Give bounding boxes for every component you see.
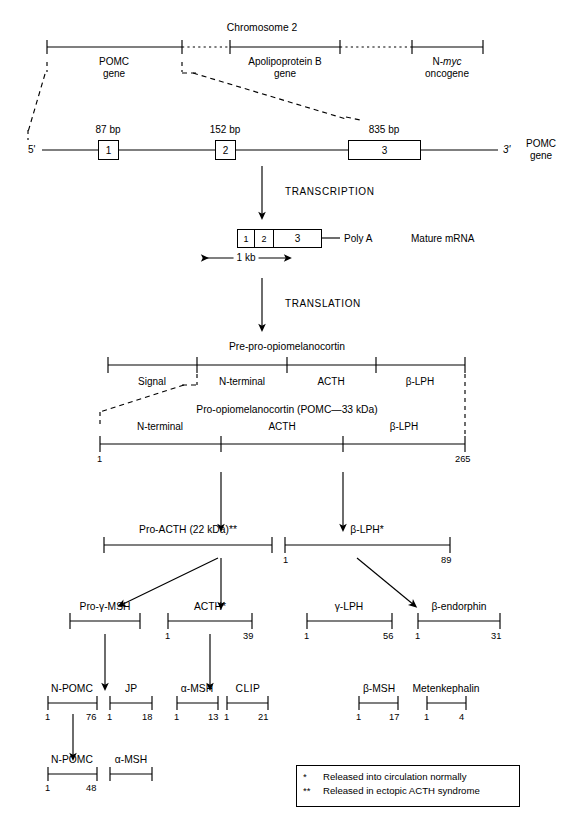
locus-sublabel-nmyc: oncogene (425, 68, 469, 79)
peptide-label-blph: β-LPH* (350, 524, 383, 536)
locus-nmyc-prefix: N- (433, 56, 444, 67)
metenkephalin-start-residue: 1 (424, 712, 429, 722)
gamma-lph-start-residue: 1 (304, 631, 309, 641)
peptide-label-metenkephalin: Metenkephalin (413, 683, 480, 695)
peptide-label-acth: ACTH* (194, 601, 226, 613)
exon-box-3: 3 (348, 140, 421, 160)
mrna-name-label: Mature mRNA (411, 233, 474, 244)
locus-label-nmyc: N-myc (433, 56, 462, 67)
gene-right-label-line2: gene (530, 150, 552, 161)
preprotein-domain-acth: ACTH (317, 376, 344, 387)
clip-end-residue: 21 (258, 712, 268, 722)
n-pomc-76-end-residue: 76 (86, 712, 96, 722)
peptide-label-beta-endorphin: β-endorphin (431, 601, 486, 613)
n-pomc-76-start-residue: 1 (45, 712, 50, 722)
jp-end-residue: 18 (142, 712, 152, 722)
proprotein-title: Pro-opiomelanocortin (POMC—33 kDa) (196, 404, 377, 416)
proprotein-domain-nterminal: N-terminal (137, 421, 183, 432)
peptide-label-alpha-msh-13: α-MSH (181, 683, 213, 695)
gene-three-prime-label: 3' (503, 144, 510, 155)
proprotein-end-residue: 265 (455, 454, 471, 464)
peptide-label-alpha-msh-final: α-MSH (115, 754, 147, 766)
locus-sublabel-apob: gene (274, 68, 296, 79)
preprotein-title: Pre-pro-opiomelanocortin (229, 341, 345, 353)
mrna-polya-label: Poly A (344, 233, 372, 244)
locus-sublabel-pomc: gene (103, 68, 125, 79)
locus-nmyc-italic: myc (443, 56, 461, 67)
peptide-label-n-pomc-48: N-POMC (51, 754, 93, 766)
peptide-label-clip: CLIP (236, 683, 261, 695)
legend-row-2: **Released in ectopic ACTH syndrome (303, 785, 480, 796)
n-pomc-48-end-residue: 48 (86, 783, 96, 793)
peptide-label-beta-msh: β-MSH (363, 683, 395, 695)
gene-five-prime-label: 5' (28, 144, 35, 155)
peptide-label-pro-gamma-msh: Pro-γ-MSH (80, 601, 131, 613)
exon-size-3: 835 bp (369, 124, 400, 135)
proprotein-domain-blph: β-LPH (390, 421, 419, 432)
legend-marker-1: * (303, 771, 323, 782)
proprotein-start-residue: 1 (97, 454, 102, 464)
proprotein-domain-acth: ACTH (268, 421, 295, 432)
locus-label-apob: Apolipoprotein B (248, 56, 321, 67)
metenkephalin-end-residue: 4 (459, 712, 464, 722)
beta-endorphin-start-residue: 1 (415, 631, 420, 641)
legend-marker-2: ** (303, 785, 323, 796)
alpha-msh-13-start-residue: 1 (174, 712, 179, 722)
step-transcription-label: TRANSCRIPTION (285, 186, 374, 197)
mrna-segment-1: 1 (237, 229, 255, 248)
mrna-segment-2: 2 (255, 229, 274, 248)
figure-canvas: Chromosome 2 POMC gene Apolipoprotein B … (0, 0, 577, 827)
step-translation-label: TRANSLATION (285, 298, 361, 309)
mrna-scale-label: 1 kb (234, 252, 259, 263)
preprotein-domain-signal: Signal (138, 376, 166, 387)
beta-msh-start-residue: 1 (356, 712, 361, 722)
legend-text-1: Released into circulation normally (323, 771, 466, 782)
mrna-segment-3: 3 (274, 229, 322, 248)
jp-start-residue: 1 (107, 712, 112, 722)
beta-msh-end-residue: 17 (389, 712, 399, 722)
blph-end-residue: 89 (441, 555, 451, 565)
beta-endorphin-end-residue: 31 (491, 631, 501, 641)
gene-right-label-line1: POMC (526, 138, 556, 149)
chromosome-title: Chromosome 2 (227, 22, 297, 34)
gamma-lph-end-residue: 56 (383, 631, 393, 641)
peptide-label-pro-acth: Pro-ACTH (22 kDa)** (139, 524, 237, 536)
acth-end-residue: 39 (243, 631, 253, 641)
alpha-msh-13-end-residue: 13 (208, 712, 218, 722)
locus-label-pomc: POMC (99, 56, 129, 67)
preprotein-domain-blph: β-LPH (406, 376, 435, 387)
clip-start-residue: 1 (224, 712, 229, 722)
legend-text-2: Released in ectopic ACTH syndrome (323, 785, 480, 796)
acth-start-residue: 1 (165, 631, 170, 641)
exon-box-1: 1 (98, 140, 119, 160)
peptide-label-gamma-lph: γ-LPH (335, 601, 364, 613)
exon-size-2: 152 bp (210, 124, 241, 135)
exon-box-2: 2 (215, 140, 236, 160)
preprotein-domain-nterminal: N-terminal (219, 376, 265, 387)
peptide-label-jp: JP (125, 683, 137, 695)
n-pomc-48-start-residue: 1 (45, 783, 50, 793)
blph-start-residue: 1 (283, 555, 288, 565)
legend-row-1: *Released into circulation normally (303, 771, 466, 782)
peptide-label-n-pomc-76: N-POMC (51, 683, 93, 695)
exon-size-1: 87 bp (95, 124, 120, 135)
